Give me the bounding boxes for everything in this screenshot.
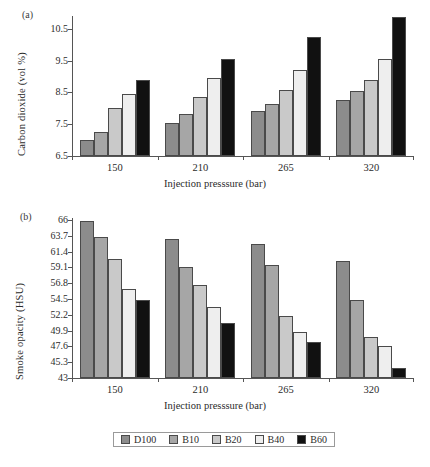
x-tick-mark xyxy=(413,378,414,382)
x-tick-label: 265 xyxy=(278,162,294,173)
bar-b10-210 xyxy=(179,267,193,378)
plot-area-b: 4345.347.649.952.254.556.859.161.463.766… xyxy=(72,218,414,378)
y-tick-mark xyxy=(68,220,72,221)
x-tick-label: 210 xyxy=(192,162,208,173)
x-tick-mark xyxy=(243,378,244,382)
x-tick-mark xyxy=(72,378,73,382)
bar-d100-150 xyxy=(80,140,94,156)
y-tick-mark xyxy=(68,283,72,284)
legend-item-b20: B20 xyxy=(212,434,242,445)
y-axis-title-b: Smoke opacity (HSU) xyxy=(14,283,25,380)
bar-b40-210 xyxy=(207,78,221,156)
chart-panel-a: (a) Carbon dioxide (vol %) 6.57.58.59.51… xyxy=(0,0,430,196)
bar-d100-320 xyxy=(336,261,350,378)
bar-d100-320 xyxy=(336,100,350,156)
bar-d100-150 xyxy=(80,221,94,378)
x-tick-label: 320 xyxy=(363,162,379,173)
y-tick-mark xyxy=(68,29,72,30)
x-tick-mark xyxy=(158,156,159,160)
x-axis-title-b: Injection presssure (bar) xyxy=(0,400,430,411)
bar-b10-320 xyxy=(350,300,364,378)
bar-b20-210 xyxy=(193,97,207,157)
bar-d100-210 xyxy=(165,123,179,156)
legend-label-b60: B60 xyxy=(310,434,327,445)
legend-item-d100: D100 xyxy=(121,434,156,445)
x-tick-mark xyxy=(413,156,414,160)
bar-b40-150 xyxy=(122,94,136,156)
bar-d100-265 xyxy=(251,244,265,378)
legend-swatch-b20 xyxy=(212,435,221,444)
legend-item-b60: B60 xyxy=(297,434,327,445)
bar-b20-320 xyxy=(364,80,378,156)
bar-b40-150 xyxy=(122,289,136,378)
bar-b20-320 xyxy=(364,337,378,378)
bar-b60-150 xyxy=(136,300,150,378)
y-tick-mark xyxy=(68,61,72,62)
bar-d100-265 xyxy=(251,111,265,156)
plot-area-a: 6.57.58.59.510.5150210265320 xyxy=(72,16,414,156)
bar-b60-265 xyxy=(307,342,321,378)
bar-b10-210 xyxy=(179,114,193,156)
y-axis-line-b xyxy=(72,218,73,379)
x-axis-title-a: Injection presssure (bar) xyxy=(0,178,430,189)
x-tick-label: 210 xyxy=(192,384,208,395)
bar-b40-265 xyxy=(293,70,307,156)
bar-b20-265 xyxy=(279,316,293,378)
y-tick-mark xyxy=(68,299,72,300)
bar-d100-210 xyxy=(165,239,179,378)
y-tick-mark xyxy=(68,92,72,93)
legend-swatch-b10 xyxy=(169,435,178,444)
y-tick-mark xyxy=(68,236,72,237)
bar-b20-150 xyxy=(108,259,122,378)
x-tick-mark xyxy=(243,156,244,160)
x-tick-mark xyxy=(72,156,73,160)
bar-b60-265 xyxy=(307,37,321,156)
y-tick-mark xyxy=(68,124,72,125)
bar-b40-320 xyxy=(378,346,392,378)
bar-b40-265 xyxy=(293,332,307,378)
bar-b10-150 xyxy=(94,132,108,157)
bar-b60-150 xyxy=(136,80,150,156)
bar-b10-150 xyxy=(94,237,108,378)
bar-b40-320 xyxy=(378,59,392,156)
y-tick-mark xyxy=(68,252,72,253)
legend-label-d100: D100 xyxy=(134,434,156,445)
chart-panel-b: (b) Smoke opacity (HSU) 4345.347.649.952… xyxy=(0,204,430,428)
legend-item-b10: B10 xyxy=(169,434,199,445)
bar-b40-210 xyxy=(207,307,221,378)
y-tick-mark xyxy=(68,331,72,332)
bar-b20-210 xyxy=(193,285,207,378)
bar-b20-265 xyxy=(279,90,293,156)
legend-swatch-b60 xyxy=(297,435,306,444)
panel-label-a: (a) xyxy=(22,9,33,20)
y-tick-mark xyxy=(68,315,72,316)
bar-b10-265 xyxy=(265,104,279,156)
bar-b10-265 xyxy=(265,265,279,378)
bar-b60-320 xyxy=(392,368,406,378)
y-axis-line-a xyxy=(72,16,73,157)
bar-b10-320 xyxy=(350,91,364,156)
legend-swatch-b40 xyxy=(255,435,264,444)
y-tick-mark xyxy=(68,267,72,268)
bar-b60-210 xyxy=(221,323,235,378)
x-tick-label: 320 xyxy=(363,384,379,395)
legend-swatch-d100 xyxy=(121,435,130,444)
y-axis-title-a: Carbon dioxide (vol %) xyxy=(16,52,27,156)
chart-legend: D100B10B20B40B60 xyxy=(113,432,335,447)
legend-item-b40: B40 xyxy=(255,434,285,445)
panel-label-b: (b) xyxy=(20,211,32,222)
legend-label-b10: B10 xyxy=(182,434,199,445)
bar-b20-150 xyxy=(108,108,122,156)
y-tick-mark xyxy=(68,346,72,347)
y-tick-mark xyxy=(68,362,72,363)
x-tick-label: 150 xyxy=(107,162,123,173)
x-tick-label: 265 xyxy=(278,384,294,395)
legend-label-b20: B20 xyxy=(225,434,242,445)
figure-root: (a) Carbon dioxide (vol %) 6.57.58.59.51… xyxy=(0,0,430,467)
x-tick-mark xyxy=(158,378,159,382)
legend-label-b40: B40 xyxy=(268,434,285,445)
x-tick-label: 150 xyxy=(107,384,123,395)
x-tick-mark xyxy=(329,156,330,160)
bar-b60-320 xyxy=(392,17,406,156)
x-tick-mark xyxy=(329,378,330,382)
